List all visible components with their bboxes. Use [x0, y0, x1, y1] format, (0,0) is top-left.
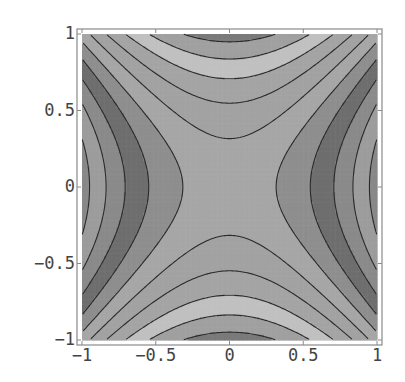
x-tick-label: 1: [347, 347, 405, 364]
x-tick-label: −1: [52, 347, 112, 364]
y-tick-label: 1: [5, 25, 75, 42]
x-tick-label: 0.5: [273, 347, 333, 364]
y-tick-label: −1: [5, 331, 75, 348]
x-tick-label: 0: [200, 347, 260, 364]
y-tick-label: 0: [5, 178, 75, 195]
y-tick-label: −0.5: [5, 255, 75, 272]
y-tick-label: 0.5: [5, 102, 75, 119]
x-tick-label: −0.5: [126, 347, 186, 364]
